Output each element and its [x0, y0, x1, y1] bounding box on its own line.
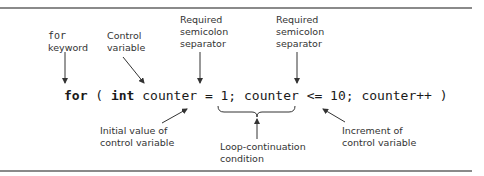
arrow-control-variable	[123, 57, 144, 83]
bottom-rule	[0, 170, 472, 172]
arrow-initial-value	[162, 109, 187, 123]
arrow-increment	[323, 109, 345, 122]
brace-condition	[218, 106, 295, 117]
arrows-layer	[0, 0, 484, 176]
